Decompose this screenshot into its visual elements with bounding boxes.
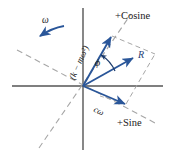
- resultant-label: R: [138, 50, 144, 60]
- phasor-diagram-figure: +Cosine +Sine ω R ϕ (k − mω²) cω: [0, 0, 174, 157]
- diagram-canvas: [0, 0, 174, 157]
- construction-line-from-damping-tip: [126, 54, 155, 104]
- sine-axis-label: +Sine: [117, 118, 142, 129]
- cosine-axis-label: +Cosine: [115, 11, 150, 22]
- phase-angle-label: ϕ: [95, 58, 100, 68]
- construction-line-from-stiffness-tip: [112, 36, 155, 54]
- vector-damping: [83, 86, 125, 104]
- rotation-arrow: [40, 26, 64, 36]
- omega-label: ω: [42, 16, 49, 26]
